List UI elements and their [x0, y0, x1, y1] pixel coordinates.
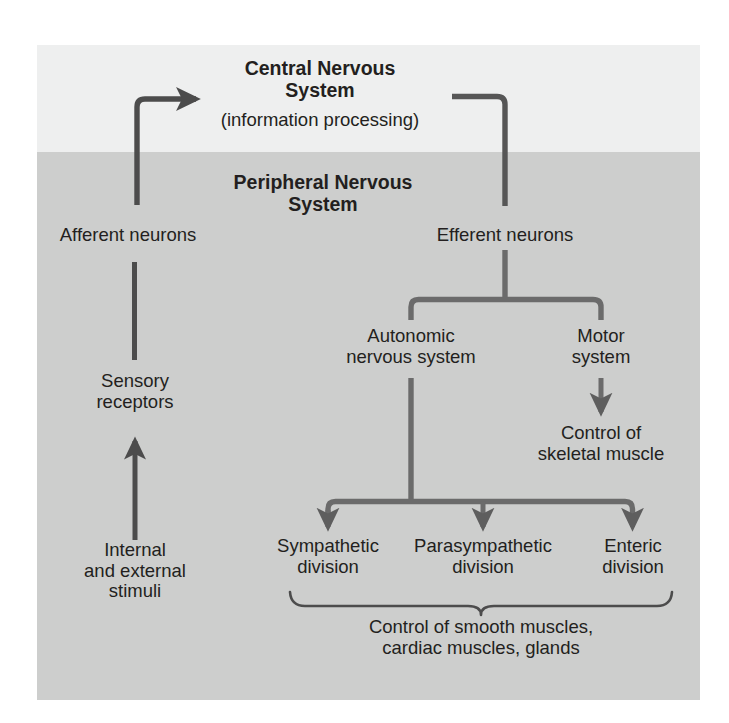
- node-efferent-neurons: Efferent neurons: [437, 225, 573, 246]
- node-parasympathetic-line2: division: [452, 556, 514, 577]
- node-internal-external-stimuli: Internaland externalstimuli: [84, 540, 186, 602]
- node-control-smooth-muscles: Control of smooth muscles,cardiac muscle…: [369, 617, 593, 658]
- cns-title-line2: System: [285, 79, 354, 101]
- node-sympathetic-line2: division: [297, 556, 359, 577]
- node-autonomic-nervous-system: Autonomicnervous system: [346, 326, 476, 367]
- node-autonomic-line2: nervous system: [346, 346, 476, 367]
- node-control-skeletal-line2: skeletal muscle: [538, 443, 664, 464]
- pns-title-line2: System: [288, 193, 357, 215]
- node-control-smooth-line2: cardiac muscles, glands: [382, 637, 579, 658]
- node-control-skeletal-muscle: Control ofskeletal muscle: [538, 423, 664, 464]
- node-sympathetic-line1: Sympathetic: [277, 535, 379, 556]
- diagram-canvas: Central NervousSystem (information proce…: [0, 0, 729, 723]
- node-control-skeletal-line1: Control of: [561, 422, 641, 443]
- node-parasympathetic-division: Parasympatheticdivision: [414, 536, 552, 577]
- node-motor-line2: system: [572, 346, 631, 367]
- node-motor-system: Motorsystem: [572, 326, 631, 367]
- node-sensory-receptors: Sensoryreceptors: [96, 371, 173, 412]
- node-afferent-neurons: Afferent neurons: [60, 225, 196, 246]
- node-enteric-division: Entericdivision: [602, 536, 664, 577]
- node-sensory-receptors-line2: receptors: [96, 391, 173, 412]
- node-sensory-receptors-line1: Sensory: [101, 370, 169, 391]
- node-stimuli-line2: and external: [84, 560, 186, 581]
- pns-title: Peripheral NervousSystem: [234, 172, 413, 216]
- node-motor-line1: Motor: [577, 325, 624, 346]
- cns-subtitle: (information processing): [221, 110, 419, 131]
- node-sympathetic-division: Sympatheticdivision: [277, 536, 379, 577]
- node-stimuli-line1: Internal: [104, 539, 166, 560]
- pns-title-line1: Peripheral Nervous: [234, 171, 413, 193]
- cns-title: Central NervousSystem: [245, 58, 396, 102]
- node-enteric-line1: Enteric: [604, 535, 662, 556]
- node-control-smooth-line1: Control of smooth muscles,: [369, 616, 593, 637]
- node-autonomic-line1: Autonomic: [367, 325, 454, 346]
- cns-title-line1: Central Nervous: [245, 57, 396, 79]
- node-enteric-line2: division: [602, 556, 664, 577]
- node-stimuli-line3: stimuli: [109, 580, 161, 601]
- node-parasympathetic-line1: Parasympathetic: [414, 535, 552, 556]
